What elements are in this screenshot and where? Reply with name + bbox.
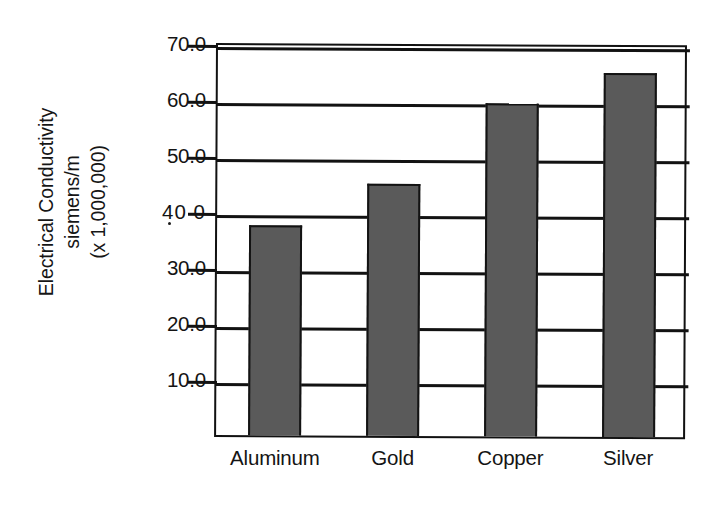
x-axis-category-labels: AluminumGoldCopperSilver	[216, 446, 687, 480]
y-tick-mark	[188, 325, 217, 328]
y-tick-mark	[188, 45, 217, 48]
y-axis-title-line-3: (x 1,000,000)	[86, 145, 112, 259]
x-tick-label-silver: Silver	[603, 446, 653, 471]
y-axis-title-line-2: siemens/m	[60, 155, 86, 248]
x-tick-label-gold: Gold	[371, 446, 414, 471]
bar-copper	[484, 103, 539, 436]
gridlines	[218, 45, 685, 47]
bar-silver	[602, 73, 657, 437]
x-tick-label-copper: Copper	[477, 446, 543, 471]
y-tick-mark	[188, 157, 217, 160]
y-axis-tick-labels: 70.060.050.040 030.020.010.0	[116, 0, 206, 507]
bar-gold	[366, 184, 420, 436]
y-axis-title-line-1: Electrical Conductivity	[34, 108, 60, 296]
y-tick-mark	[188, 101, 217, 104]
bar-chart-figure: Electrical Conductivity siemens/m (x 1,0…	[0, 0, 726, 507]
y-tick-mark	[188, 269, 217, 272]
y-tick-mark	[188, 381, 217, 384]
y-axis-title: Electrical Conductivity siemens/m (x 1,0…	[18, 52, 128, 352]
bar-aluminum	[248, 225, 302, 435]
plot-area	[214, 43, 687, 439]
y-tick-mark	[188, 213, 217, 216]
x-tick-label-aluminum: Aluminum	[230, 446, 320, 471]
gridline	[217, 47, 690, 52]
dropped-decimal-point	[168, 222, 171, 225]
